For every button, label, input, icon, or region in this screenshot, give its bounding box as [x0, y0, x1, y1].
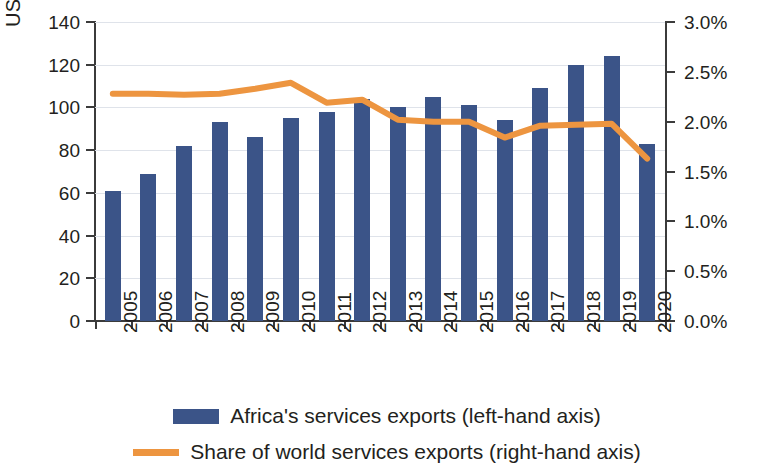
chart-figure: US $ billions 020406080100120140 0.0%0.5…: [0, 0, 774, 474]
bar-swatch-icon: [173, 409, 219, 424]
y-axis-left-tick-label: 20: [20, 269, 80, 288]
y-axis-left-tick-label: 0: [20, 312, 80, 331]
y-axis-right-tick-label: 0.0%: [684, 312, 764, 331]
legend-item-bar: Africa's services exports (left-hand axi…: [0, 398, 774, 434]
y-axis-right-tick-label: 1.0%: [684, 212, 764, 231]
y-axis-left-tick: [86, 106, 95, 108]
y-axis-left-tick-label: 120: [20, 56, 80, 75]
y-axis-left-tick: [86, 149, 95, 151]
chart-legend: Africa's services exports (left-hand axi…: [0, 398, 774, 470]
line-series: [95, 22, 665, 321]
y-axis-right-tick-label: 3.0%: [684, 13, 764, 32]
y-axis-right-tick: [666, 121, 675, 123]
y-axis-right-tick-label: 1.5%: [684, 163, 764, 182]
y-axis-left-tick-label: 80: [20, 141, 80, 160]
y-axis-right-tick-label: 2.0%: [684, 113, 764, 132]
y-axis-left-tick: [86, 277, 95, 279]
y-axis-left-tick: [86, 192, 95, 194]
legend-item-line: Share of world services exports (right-h…: [0, 434, 774, 470]
y-axis-right-tick: [666, 71, 675, 73]
plot-area: [95, 22, 665, 321]
y-axis-right-tick-label: 2.5%: [684, 63, 764, 82]
y-axis-left-tick-label: 40: [20, 227, 80, 246]
share-line-path: [113, 83, 647, 159]
y-axis-left-tick: [86, 235, 95, 237]
y-axis-right-tick-label: 0.5%: [684, 262, 764, 281]
y-axis-right-tick: [666, 21, 675, 23]
y-axis-left-tick: [86, 21, 95, 23]
line-swatch-icon: [133, 449, 179, 456]
y-axis-left-tick-label: 60: [20, 184, 80, 203]
y-axis-right-tick: [666, 171, 675, 173]
y-axis-right-tick: [666, 220, 675, 222]
legend-label-bar: Africa's services exports (left-hand axi…: [230, 404, 600, 428]
y-axis-left-tick-label: 140: [20, 13, 80, 32]
y-axis-left-tick: [86, 64, 95, 66]
x-axis-tick: [95, 321, 97, 329]
legend-label-line: Share of world services exports (right-h…: [190, 440, 641, 464]
y-axis-left-tick: [86, 320, 95, 322]
y-axis-left-tick-label: 100: [20, 98, 80, 117]
